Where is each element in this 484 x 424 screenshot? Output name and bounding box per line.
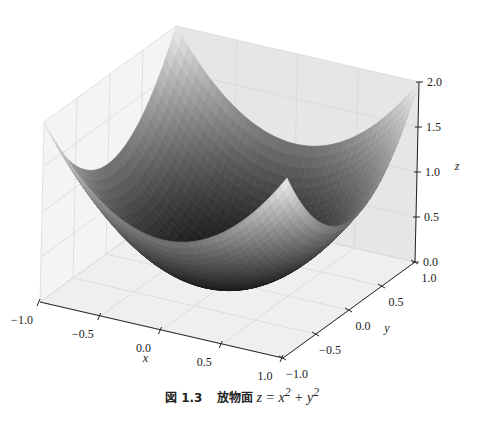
caption-spacer	[206, 391, 214, 405]
caption-formula: z = x2 + y2	[257, 390, 319, 405]
z-tick-label: 0.5	[424, 210, 439, 224]
z-axis-label: z	[454, 159, 460, 173]
y-tick-label: 0.5	[389, 295, 404, 309]
figure-caption: 図 1.3 放物面 z = x2 + y2	[0, 386, 484, 406]
x-tick-label: 1.0	[258, 369, 273, 383]
caption-surface-name: 放物面	[217, 391, 253, 405]
y-axis-label: y	[383, 321, 390, 335]
x-tick-label: 0.5	[197, 355, 212, 369]
y-tick-label: −1.0	[286, 367, 308, 381]
z-tick-label: 1.5	[426, 120, 441, 134]
z-tick-label: 1.0	[425, 165, 440, 179]
caption-math-mid: + y	[290, 390, 313, 405]
y-tick-label: −0.5	[319, 343, 341, 357]
z-tick-label: 0.0	[423, 255, 438, 269]
caption-math-lhs: z = x	[257, 390, 285, 405]
caption-figure-number: 図 1.3	[165, 391, 202, 405]
y-tick-label: 1.0	[422, 271, 437, 285]
x-axis-label: x	[142, 351, 149, 365]
x-tick-label: −0.5	[72, 327, 94, 341]
surface-plot-figure: −1.0−0.50.00.51.0x−1.0−0.50.00.51.0y0.00…	[0, 0, 484, 424]
caption-sup-y: 2	[313, 386, 319, 399]
x-tick-label: −1.0	[11, 313, 33, 327]
surface-plot-3d: −1.0−0.50.00.51.0x−1.0−0.50.00.51.0y0.00…	[0, 0, 484, 424]
z-tick-label: 2.0	[427, 75, 442, 89]
y-tick-label: 0.0	[356, 319, 371, 333]
